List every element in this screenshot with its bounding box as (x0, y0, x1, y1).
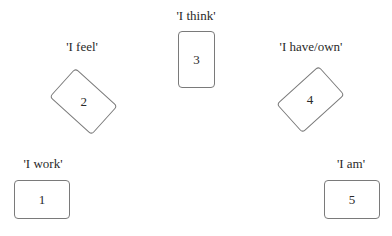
card-number: 1 (39, 192, 46, 208)
position-4-label: 'I have/own' (280, 39, 343, 55)
card-number: 2 (80, 94, 87, 110)
card-number: 5 (349, 192, 356, 208)
card-position-5: 5 (324, 180, 380, 219)
position-5-label: 'I am' (337, 156, 365, 172)
card-position-3: 3 (178, 31, 215, 88)
card-position-1: 1 (14, 180, 70, 219)
position-1-label: 'I work' (24, 156, 63, 172)
card-position-2: 2 (49, 68, 117, 135)
card-number: 3 (193, 52, 200, 68)
card-position-4: 4 (276, 66, 344, 133)
card-number: 4 (307, 92, 314, 108)
position-3-label: 'I think' (177, 8, 216, 24)
position-2-label: 'I feel' (66, 39, 98, 55)
